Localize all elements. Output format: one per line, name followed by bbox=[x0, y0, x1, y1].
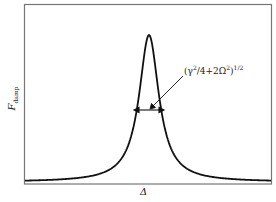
y-axis-label: Fdamp bbox=[6, 79, 19, 119]
width-annotation-label: (γ2/4+2Ω2)1/2 bbox=[184, 64, 243, 76]
x-axis-label: Δ bbox=[140, 186, 147, 197]
plot-frame bbox=[25, 5, 272, 185]
chart-canvas bbox=[0, 0, 276, 202]
width-double-arrow bbox=[134, 108, 164, 113]
lorentzian-curve bbox=[25, 35, 271, 181]
annotation-pointer-arrow bbox=[150, 76, 183, 109]
